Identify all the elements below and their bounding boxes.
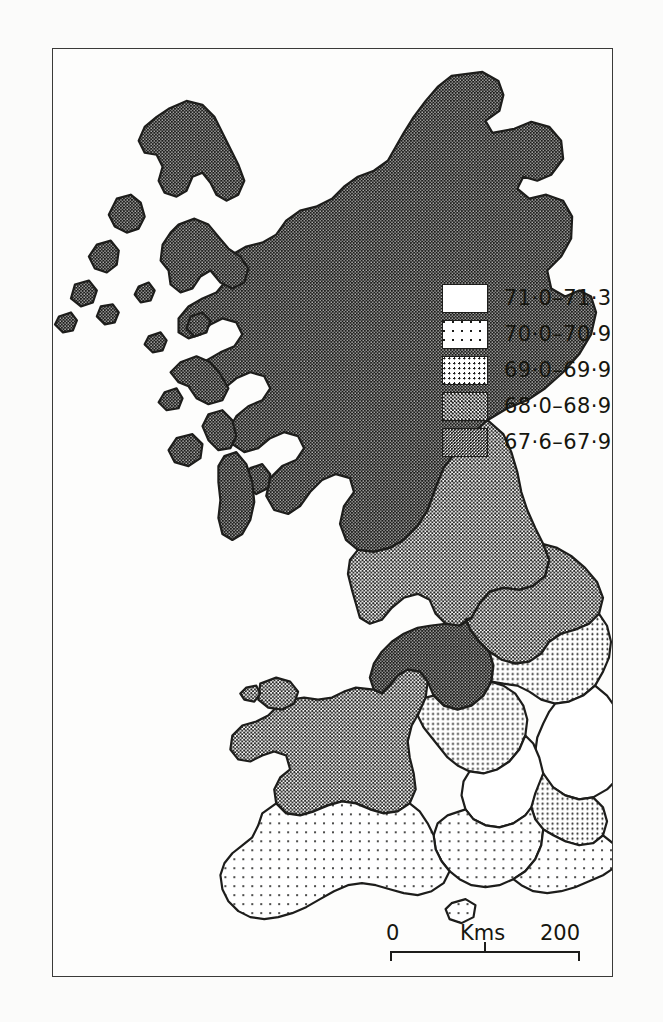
legend-swatch-69-0-69-9 xyxy=(442,356,488,385)
legend-item-0: 71·0–71·3 xyxy=(442,281,612,315)
region-outer-hebrides-north xyxy=(139,101,245,201)
legend-swatch-68-0-68-9 xyxy=(442,392,488,421)
legend-swatch-67-6-67-9 xyxy=(442,428,488,457)
legend-label-0: 71·0–71·3 xyxy=(504,286,612,310)
region-outer-hebrides-south xyxy=(89,241,119,273)
region-isle-of-wight xyxy=(446,899,476,923)
legend-label-3: 68·0–68·9 xyxy=(504,394,612,418)
legend-item-2: 69·0–69·9 xyxy=(442,353,612,387)
legend-label-4: 67·6–67·9 xyxy=(504,430,612,454)
map-frame: 71·0–71·3 70·0–70·9 69·0–69·9 68·0–68·9 … xyxy=(52,48,613,977)
region-anglesey xyxy=(258,678,298,710)
region-islet-d xyxy=(187,312,211,336)
region-south-west-england xyxy=(220,801,449,919)
region-outer-hebrides-mid xyxy=(109,195,145,233)
legend-label-1: 70·0–70·9 xyxy=(504,322,612,346)
region-islet-f xyxy=(135,282,155,302)
legend-swatch-71-0-71-3 xyxy=(442,284,488,313)
legend: 71·0–71·3 70·0–70·9 69·0–69·9 68·0–68·9 … xyxy=(442,281,612,461)
region-islet-c xyxy=(145,332,167,352)
region-jura xyxy=(202,410,236,450)
scale-tick-max xyxy=(578,951,580,961)
scale-bar-rule xyxy=(386,951,586,965)
region-hebrides-islet-b xyxy=(97,304,119,324)
region-kintyre xyxy=(218,452,254,540)
scale-bar: 0 Kms 200 xyxy=(386,921,586,965)
scale-label-unit: Kms xyxy=(460,921,505,945)
legend-swatch-70-0-70-9 xyxy=(442,320,488,349)
scale-tick-mid xyxy=(484,942,486,952)
region-skye xyxy=(161,219,249,293)
legend-item-4: 67·6–67·9 xyxy=(442,425,612,459)
region-barra xyxy=(71,281,97,307)
figure-canvas: 71·0–71·3 70·0–70·9 69·0–69·9 68·0–68·9 … xyxy=(0,0,663,1022)
legend-label-2: 69·0–69·9 xyxy=(504,358,612,382)
region-hebrides-islet-a xyxy=(55,312,77,332)
region-holy-island xyxy=(240,686,260,702)
region-islay xyxy=(169,434,203,466)
scale-label-min: 0 xyxy=(386,921,399,945)
legend-item-3: 68·0–68·9 xyxy=(442,389,612,423)
scale-tick-min xyxy=(390,951,392,961)
scale-label-max: 200 xyxy=(540,921,580,945)
choropleth-map-svg xyxy=(53,49,612,976)
region-islet-e xyxy=(159,388,183,410)
scale-bar-labels: 0 Kms 200 xyxy=(386,921,586,949)
legend-item-1: 70·0–70·9 xyxy=(442,317,612,351)
